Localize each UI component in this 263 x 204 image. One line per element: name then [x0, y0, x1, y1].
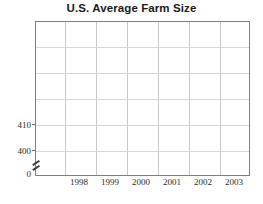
x-tick-label-1999: 1999	[101, 178, 119, 187]
axis-break-slash	[32, 165, 40, 171]
x-axis: 1998 1999 2000 2001 2002 2003	[35, 178, 250, 192]
x-tick-label-2002: 2002	[194, 178, 212, 187]
chart-title: U.S. Average Farm Size	[0, 2, 263, 14]
x-tick-label-2000: 2000	[132, 178, 150, 187]
gridline-horizontal	[36, 47, 249, 48]
y-tick-label-400: 400	[18, 147, 32, 156]
axis-break-icon	[31, 159, 40, 172]
gridline-horizontal	[36, 125, 249, 126]
x-tick-label-2001: 2001	[163, 178, 181, 187]
chart-container: U.S. Average Farm Size 410 400 0 1998 19…	[0, 0, 263, 204]
y-axis: 410 400 0	[0, 0, 31, 204]
x-tick-label-2003: 2003	[225, 178, 243, 187]
plot-area	[35, 21, 250, 176]
y-tick-mark	[32, 124, 35, 125]
gridline-horizontal	[36, 99, 249, 100]
x-tick-label-1998: 1998	[70, 178, 88, 187]
gridline-horizontal	[36, 73, 249, 74]
gridline-horizontal	[36, 151, 249, 152]
y-tick-label-410: 410	[18, 121, 32, 130]
y-tick-mark	[32, 150, 35, 151]
